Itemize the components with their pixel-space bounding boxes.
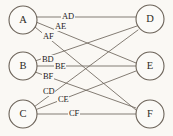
edge-label-cd: CD [42,87,55,96]
node-f: F [136,100,164,128]
node-label-e: E [147,60,153,71]
node-a: A [9,6,37,34]
edge-label-be: BE [54,62,66,71]
edge-label-ce: CE [57,95,69,104]
edge-label-cf: CF [68,109,80,118]
node-label-c: C [19,108,26,119]
node-d: D [136,5,164,33]
node-label-b: B [19,60,26,71]
edge-label-ae: AE [54,22,67,31]
edge-label-bd: BD [41,55,54,64]
edge-label-ad: AD [61,12,75,21]
node-c: C [9,100,37,128]
bipartite-graph-figure: ABCDEF ADAEAFBDBEBFCDCECF [0,0,173,136]
node-b: B [9,52,37,80]
node-label-f: F [147,108,153,119]
edge-label-bf: BF [42,72,54,81]
node-e: E [136,52,164,80]
graph-canvas: ABCDEF [0,0,173,136]
node-label-d: D [146,13,154,24]
node-label-a: A [19,14,27,25]
edge-label-af: AF [42,32,54,41]
nodes-group: ABCDEF [9,5,164,128]
